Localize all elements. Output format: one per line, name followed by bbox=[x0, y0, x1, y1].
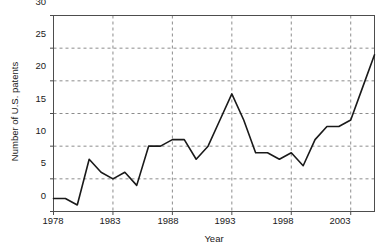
x-tick-label-1988: 1988 bbox=[146, 216, 190, 226]
x-tick-label-1978: 1978 bbox=[31, 216, 75, 226]
y-axis-title: Number of U.S. patents bbox=[9, 32, 20, 192]
y-tick-label-0: 0 bbox=[20, 191, 46, 201]
x-tick-label-2003: 2003 bbox=[318, 216, 362, 226]
x-tick-label-1998: 1998 bbox=[261, 216, 305, 226]
y-tick-label-20: 20 bbox=[20, 61, 46, 71]
y-tick-label-15: 15 bbox=[20, 94, 46, 104]
patents-line-chart-figure: Number of U.S. patents Year 0 5 10 15 20… bbox=[0, 0, 387, 252]
x-axis-title: Year bbox=[53, 233, 375, 244]
axis-ticks bbox=[50, 16, 351, 216]
data-line-us-patents bbox=[54, 55, 375, 205]
x-tick-label-1993: 1993 bbox=[203, 216, 247, 226]
y-tick-label-25: 25 bbox=[20, 29, 46, 39]
y-tick-label-5: 5 bbox=[20, 158, 46, 168]
x-tick-label-1983: 1983 bbox=[88, 216, 132, 226]
gridlines bbox=[54, 16, 375, 212]
y-tick-label-10: 10 bbox=[20, 126, 46, 136]
y-tick-label-30: 30 bbox=[20, 0, 46, 7]
